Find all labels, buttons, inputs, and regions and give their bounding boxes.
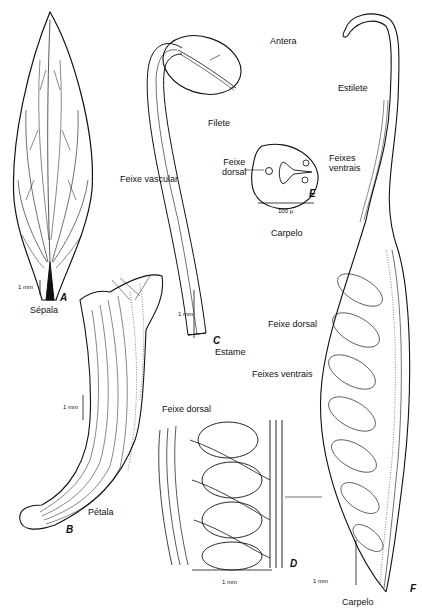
panel-letter-c: C xyxy=(213,335,220,346)
carpel-caption: Carpelo xyxy=(342,597,374,607)
vascular-bundle-label: Feixe vascular xyxy=(120,174,178,184)
sepal-caption: Sépala xyxy=(30,305,58,315)
petal-caption: Pétala xyxy=(88,507,114,517)
carpel-section-drawing xyxy=(244,144,318,209)
carpel-section-caption: Carpelo xyxy=(271,228,303,238)
sepal-scale-label: 1 mm xyxy=(18,284,33,291)
botanical-figure: 1 mm A Sépala 1 mm Pétala B Antera Filet… xyxy=(0,0,422,608)
petal-scale-label: 1 mm xyxy=(63,404,78,411)
panel-letter-e: E xyxy=(309,188,316,199)
anther-label: Antera xyxy=(270,36,297,46)
carpel-detail-drawing xyxy=(159,420,322,570)
dorsal-bundle-label-f: Feixe dorsal xyxy=(268,319,317,329)
dorsal-bundle-label-line1: Feixe xyxy=(222,157,247,167)
sepal-drawing xyxy=(13,12,92,300)
section-scale-label: 100 µ xyxy=(278,208,293,215)
stamen-caption: Estame xyxy=(215,347,246,357)
carpel-scale-label: 1 mm xyxy=(313,578,328,585)
style-label: Estilete xyxy=(338,83,368,93)
panel-letter-a: A xyxy=(60,292,67,303)
ventral-bundles-label-line2: ventrais xyxy=(329,163,361,173)
detail-scale-label: 1 mm xyxy=(222,579,237,586)
carpel-drawing xyxy=(320,14,409,592)
ventral-bundles-label-e: Feixes ventrais xyxy=(329,153,361,173)
dorsal-bundle-label-e: Feixe dorsal xyxy=(222,157,247,177)
ventral-bundles-label-line1: Feixes xyxy=(329,153,361,163)
dorsal-bundle-label-d: Feixe dorsal xyxy=(162,404,211,414)
stamen-scale-label: 1 mm xyxy=(178,311,193,318)
panel-letter-f: F xyxy=(410,583,416,594)
dorsal-bundle-label-line2: dorsal xyxy=(222,167,247,177)
ventral-bundles-label-f: Feixes ventrais xyxy=(252,369,313,379)
filament-label: Filete xyxy=(208,118,230,128)
panel-letter-d: D xyxy=(290,558,297,569)
panel-letter-b: B xyxy=(66,524,73,535)
